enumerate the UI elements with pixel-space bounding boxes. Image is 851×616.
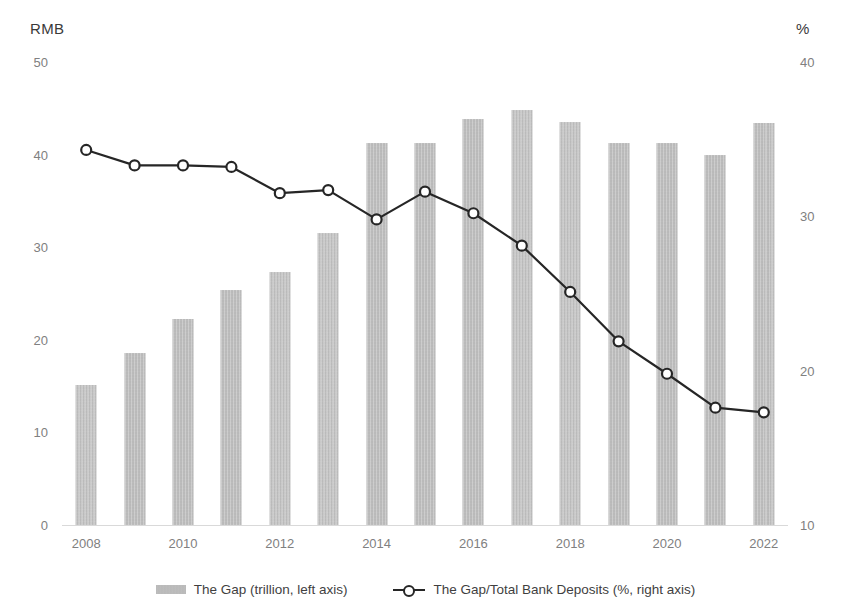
x-axis-tick-2008: 2008: [72, 536, 101, 551]
x-axis-tick-2022: 2022: [749, 536, 778, 551]
x-axis-tick-2016: 2016: [459, 536, 488, 551]
line-marker-2008: [81, 145, 91, 155]
line-marker-2015: [420, 187, 430, 197]
line-marker-2022: [759, 407, 769, 417]
legend-label-the-gap: The Gap (trillion, left axis): [194, 582, 348, 597]
line-marker-2016: [468, 208, 478, 218]
left-axis-tick-30: 30: [34, 241, 48, 254]
left-axis-tick-20: 20: [34, 333, 48, 346]
left-axis-tick-0: 0: [41, 519, 48, 532]
line-marker-2009: [130, 160, 140, 170]
x-axis-tick-2018: 2018: [556, 536, 585, 551]
line-marker-2017: [517, 241, 527, 251]
line-marker-2011: [226, 162, 236, 172]
right-axis-tick-10: 10: [800, 519, 814, 532]
chart-container: RMB % 01020304050 10203040 2008201020122…: [0, 0, 851, 616]
line-marker-2018: [565, 287, 575, 297]
x-axis-line: [62, 525, 788, 526]
bar-swatch-icon: [156, 585, 186, 594]
line-marker-2021: [710, 403, 720, 413]
right-axis-tick-labels: 10203040: [800, 0, 840, 616]
left-axis-tick-50: 50: [34, 56, 48, 69]
right-axis-tick-20: 20: [800, 364, 814, 377]
line-marker-2014: [372, 214, 382, 224]
line-series-markers: [81, 145, 769, 417]
line-marker-2020: [662, 369, 672, 379]
legend-item-gap-over-deposits[interactable]: The Gap/Total Bank Deposits (%, right ax…: [393, 582, 695, 597]
x-axis-tick-2012: 2012: [265, 536, 294, 551]
line-marker-2012: [275, 188, 285, 198]
left-axis-tick-labels: 01020304050: [14, 0, 48, 616]
line-series-layer: [62, 62, 788, 525]
x-axis-tick-2020: 2020: [653, 536, 682, 551]
chart-legend: The Gap (trillion, left axis) The Gap/To…: [0, 582, 851, 597]
plot-area: [62, 62, 788, 525]
x-axis-tick-2014: 2014: [362, 536, 391, 551]
right-axis-tick-30: 30: [800, 210, 814, 223]
line-marker-2019: [614, 336, 624, 346]
legend-label-gap-over-deposits: The Gap/Total Bank Deposits (%, right ax…: [433, 582, 695, 597]
x-axis-tick-2010: 2010: [169, 536, 198, 551]
left-axis-tick-10: 10: [34, 426, 48, 439]
line-marker-swatch-icon: [393, 585, 425, 595]
line-marker-2010: [178, 160, 188, 170]
legend-item-the-gap[interactable]: The Gap (trillion, left axis): [156, 582, 348, 597]
left-axis-tick-40: 40: [34, 148, 48, 161]
line-marker-2013: [323, 185, 333, 195]
right-axis-tick-40: 40: [800, 56, 814, 69]
